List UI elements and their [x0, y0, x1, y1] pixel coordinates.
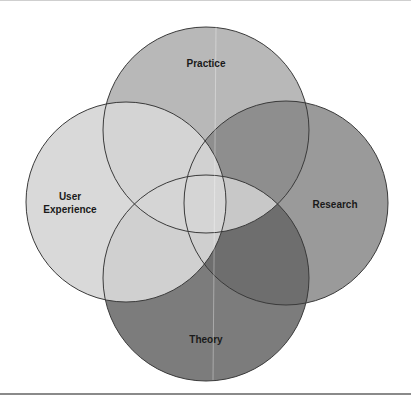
- venn-diagram: Practice Research Theory User Experience: [0, 0, 411, 403]
- label-research: Research: [312, 199, 357, 210]
- bottom-rule: [0, 393, 411, 395]
- label-practice: Practice: [187, 58, 226, 69]
- label-theory: Theory: [189, 334, 223, 345]
- label-ux-line2: Experience: [43, 204, 97, 215]
- label-ux-line1: User: [59, 191, 81, 202]
- circle-user-experience: [26, 102, 226, 302]
